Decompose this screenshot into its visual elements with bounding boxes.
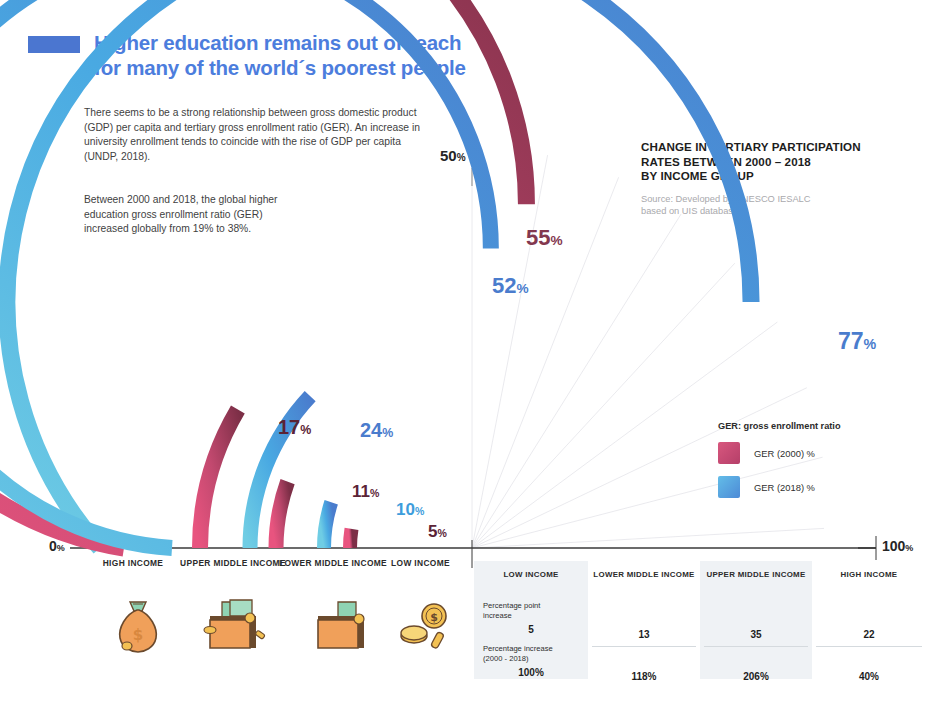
table-column-lower-middle-income: LOWER MIDDLE INCOME 13 118% — [588, 561, 700, 679]
value-label-low-2000: 5% — [428, 523, 447, 540]
arc-low-income-2000 — [350, 529, 352, 548]
value-label-low-2018: 10% — [396, 501, 424, 518]
table-value: 5 — [474, 624, 588, 635]
arc-upper-middle-income-2000 — [200, 410, 238, 548]
category-label-upper-middle-income: UPPER MIDDLE INCOME — [178, 558, 288, 569]
money-bag-icon: $ — [108, 598, 168, 656]
table-cell-high-income-pi: 40% — [812, 667, 926, 682]
row-label-percentage-increase: Percentage increase (2000 - 2018) — [474, 644, 588, 663]
full-wallet-icon — [200, 598, 272, 656]
row-label-percentage-point: Percentage point increase — [474, 601, 588, 620]
arc-layer — [0, 0, 751, 548]
category-label-high-income: HIGH INCOME — [78, 558, 188, 569]
arc-low-income-2018 — [324, 502, 331, 548]
table-cell-low-income-pi: Percentage increase (2000 - 2018) 100% — [474, 644, 588, 678]
table-cell-upper-middle-pp: 35 — [700, 625, 812, 640]
legend-item-ger-2018: GER (2018) % — [718, 476, 938, 498]
legend-label-ger-2000: GER (2000) % — [754, 448, 815, 459]
table-value: 40% — [812, 671, 926, 682]
table-cell-lower-middle-pp: 13 — [588, 625, 700, 640]
axis-label-mid: 50% — [440, 147, 466, 164]
chart-heading: CHANGE IN TERTIARY PARTICIPATION RATES B… — [641, 140, 941, 218]
table-header-high-income: HIGH INCOME — [812, 561, 926, 581]
legend-label-ger-2018: GER (2018) % — [754, 482, 815, 493]
wallet-icon — [308, 598, 372, 656]
table-value: 13 — [588, 629, 700, 640]
legend-item-ger-2000: GER (2000) % — [718, 442, 938, 464]
summary-table: LOW INCOME Percentage point increase 5 P… — [474, 561, 926, 679]
axis-label-min: 0% — [49, 538, 65, 554]
chart-legend: GER: gross enrollment ratio GER (2000) %… — [718, 421, 938, 510]
value-label-high-2018: 77% — [838, 330, 876, 353]
chart-source-line2: based on UIS database — [641, 205, 941, 218]
table-column-high-income: HIGH INCOME 22 40% — [812, 561, 926, 679]
value-label-uppermid-2018: 52% — [492, 275, 529, 297]
svg-text:$: $ — [133, 626, 143, 644]
arc-high-income-2000 — [0, 0, 526, 548]
svg-text:$: $ — [430, 611, 438, 624]
chart-source-line1: Source: Developed by UNESCO IESALC — [641, 193, 941, 206]
legend-title: GER: gross enrollment ratio — [718, 421, 938, 431]
table-cell-upper-middle-pi: 206% — [700, 667, 812, 682]
arc-lower-middle-income-2000 — [276, 482, 288, 548]
legend-swatch-ger-2018 — [718, 476, 740, 498]
table-row-divider — [704, 646, 808, 647]
infographic-root: Higher education remains out of reach fo… — [0, 0, 948, 717]
second-paragraph: Between 2000 and 2018, the global higher… — [84, 193, 299, 236]
table-cell-high-income-pp: 22 — [812, 625, 926, 640]
table-cell-low-income-pp: Percentage point increase 5 — [474, 601, 588, 635]
arc-high-income-2018 — [7, 0, 751, 548]
page-title: Higher education remains out of reach fo… — [28, 30, 488, 80]
intro-paragraph: There seems to be a strong relationship … — [84, 106, 434, 164]
table-row-divider — [592, 646, 696, 647]
arc-upper-middle-income-2018 — [0, 0, 491, 548]
table-cell-lower-middle-pi: 118% — [588, 667, 700, 682]
table-header-low-income: LOW INCOME — [474, 561, 588, 581]
value-label-high-2000: 55% — [526, 227, 563, 249]
coins-icon: $ — [398, 600, 458, 656]
value-label-lowermid-2000: 11% — [352, 483, 379, 500]
legend-swatch-ger-2000 — [718, 442, 740, 464]
title-swatch-icon — [28, 36, 80, 53]
chart-heading-line2: RATES BETWEEN 2000 – 2018 — [641, 155, 941, 170]
table-value: 22 — [812, 629, 926, 640]
chart-source: Source: Developed by UNESCO IESALC based… — [641, 193, 941, 218]
table-row-divider — [816, 646, 922, 647]
category-label-low-income: LOW INCOME — [368, 558, 473, 569]
title-block: Higher education remains out of reach fo… — [28, 30, 488, 80]
table-value: 206% — [700, 671, 812, 682]
table-value: 118% — [588, 671, 700, 682]
table-column-upper-middle-income: UPPER MIDDLE INCOME 35 206% — [700, 561, 812, 679]
table-value: 100% — [474, 667, 588, 678]
table-value: 35 — [700, 629, 812, 640]
value-label-uppermid-2000: 17% — [278, 417, 311, 437]
value-label-lowermid-2018: 24% — [360, 420, 393, 440]
axis-label-max: 100% — [882, 538, 913, 554]
chart-heading-line1: CHANGE IN TERTIARY PARTICIPATION — [641, 140, 941, 155]
chart-heading-line3: BY INCOME GROUP — [641, 169, 941, 184]
table-column-low-income: LOW INCOME Percentage point increase 5 P… — [474, 561, 588, 679]
table-header-lower-middle-income: LOWER MIDDLE INCOME — [588, 561, 700, 581]
table-header-upper-middle-income: UPPER MIDDLE INCOME — [700, 561, 812, 581]
